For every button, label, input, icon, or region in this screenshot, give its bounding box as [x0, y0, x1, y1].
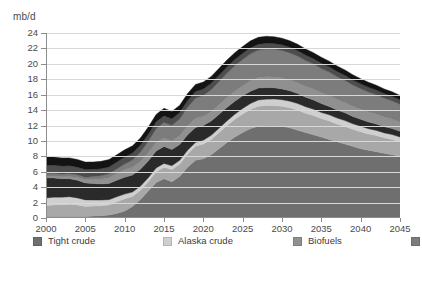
gridline	[46, 110, 400, 111]
gridline	[46, 126, 400, 127]
y-axis-tick-label: 22	[27, 44, 38, 54]
legend-item[interactable]: Unconventional NGLs	[411, 236, 422, 246]
x-axis-tick	[321, 218, 322, 222]
legend-swatch-icon	[163, 237, 172, 246]
y-axis-tick-label: 0	[33, 213, 38, 223]
gridline	[46, 172, 400, 173]
y-axis-tick	[41, 126, 46, 127]
legend-item-label: Biofuels	[308, 236, 342, 246]
gridline	[46, 33, 400, 34]
gridline	[46, 187, 400, 188]
y-axis-tick	[41, 33, 46, 34]
x-axis-tick	[85, 218, 86, 222]
x-axis-tick	[361, 218, 362, 222]
y-axis-tick	[41, 156, 46, 157]
y-axis-tick-label: 16	[27, 90, 38, 100]
legend-swatch-icon	[33, 237, 42, 246]
y-axis-tick	[41, 172, 46, 173]
gridline	[46, 64, 400, 65]
x-axis-tick	[203, 218, 204, 222]
gridline	[46, 48, 400, 49]
y-axis-tick	[41, 203, 46, 204]
gridline	[46, 141, 400, 142]
legend-item[interactable]: Alaska crude	[163, 236, 293, 246]
y-axis-tick-label: 4	[33, 182, 38, 192]
chart-legend: Tight crudeAlaska crudeBiofuelsUnconvent…	[33, 233, 413, 249]
legend-item[interactable]: Biofuels	[293, 236, 411, 246]
y-axis-tick	[41, 95, 46, 96]
y-axis-tick-label: 6	[33, 167, 38, 177]
y-axis-tick-label: 10	[27, 136, 38, 146]
x-axis-tick	[164, 218, 165, 222]
y-axis-tick-label: 2	[33, 198, 38, 208]
y-axis-tick	[41, 187, 46, 188]
y-axis-tick	[41, 110, 46, 111]
legend-swatch-icon	[293, 237, 302, 246]
y-axis-tick	[41, 48, 46, 49]
y-axis-tick-label: 12	[27, 121, 38, 131]
y-axis-tick	[41, 141, 46, 142]
plot-area: 024681012141618202224 200020052010201520…	[46, 33, 400, 218]
gridline	[46, 95, 400, 96]
y-axis-tick	[41, 79, 46, 80]
legend-item-label: Alaska crude	[178, 236, 233, 246]
y-axis-tick-label: 8	[33, 152, 38, 162]
chart-figure: mb/d 024681012141618202224 2000200520102…	[0, 0, 422, 292]
gridline	[46, 79, 400, 80]
legend-item[interactable]: Tight crude	[33, 236, 163, 246]
y-axis-tick	[41, 64, 46, 65]
x-axis-tick	[125, 218, 126, 222]
x-axis-tick	[400, 218, 401, 222]
y-axis-tick-label: 14	[27, 105, 38, 115]
gridline	[46, 203, 400, 204]
x-axis-tick	[243, 218, 244, 222]
y-axis-tick-label: 20	[27, 59, 38, 69]
gridline	[46, 156, 400, 157]
legend-item-label: Tight crude	[48, 236, 95, 246]
legend-swatch-icon	[411, 237, 420, 246]
y-axis-tick-label: 18	[27, 75, 38, 85]
y-axis-tick-label: 24	[27, 28, 38, 38]
y-axis-unit-label: mb/d	[13, 11, 36, 22]
x-axis-tick	[282, 218, 283, 222]
x-axis-tick	[46, 218, 47, 222]
